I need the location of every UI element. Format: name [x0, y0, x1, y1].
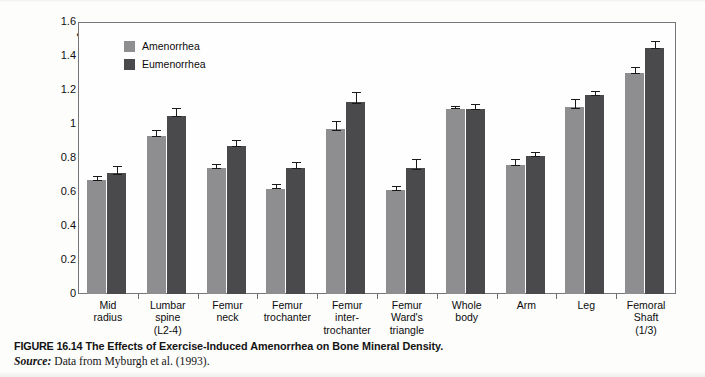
- error-bar-cap-bottom: [591, 95, 600, 96]
- y-tick: 1.6: [36, 22, 84, 23]
- y-tick: 0.4: [36, 226, 84, 227]
- y-tick-label: 1.4: [36, 49, 76, 61]
- x-axis-label: Arm: [497, 299, 557, 311]
- error-bar-cap-top: [531, 152, 540, 153]
- y-tick-label: 0.2: [36, 253, 76, 265]
- error-bar-cap-bottom: [332, 130, 341, 131]
- bar-eumenorrhea: [645, 48, 664, 295]
- bar-eumenorrhea: [227, 146, 246, 294]
- x-axis-label-line: (L2-4): [138, 324, 198, 336]
- bar-eumenorrhea: [406, 168, 425, 294]
- x-axis-label: Midradius: [78, 299, 138, 324]
- error-bar-cap-top: [172, 108, 181, 109]
- error-bar-cap-bottom: [571, 108, 580, 109]
- x-axis-label: Wholebody: [437, 299, 497, 324]
- error-bar-cap-top: [272, 184, 281, 185]
- error-bar-cap-top: [352, 92, 361, 93]
- bars-layer: [78, 22, 676, 294]
- error-bar-cap-top: [113, 166, 122, 167]
- bar-group: [78, 22, 138, 294]
- error-bar-cap-top: [392, 186, 401, 187]
- error-bar-cap-bottom: [152, 136, 161, 137]
- bar-amenorrhea: [386, 190, 405, 294]
- x-axis-label-line: triangle: [377, 324, 437, 336]
- y-tick-mark: [78, 294, 84, 295]
- error-bar-cap-bottom: [272, 188, 281, 189]
- error-bar-cap-bottom: [292, 168, 301, 169]
- x-axis-label-line: Ward's: [377, 311, 437, 323]
- bar-amenorrhea: [625, 73, 644, 294]
- bar-amenorrhea: [446, 109, 465, 294]
- bar-amenorrhea: [565, 107, 584, 294]
- bar-eumenorrhea: [346, 102, 365, 294]
- error-bar-cap-bottom: [531, 156, 540, 157]
- error-bar-cap-bottom: [212, 168, 221, 169]
- bar-eumenorrhea: [107, 173, 126, 294]
- bar-group: [377, 22, 437, 294]
- error-bar-cap-top: [232, 140, 241, 141]
- y-tick-label: 1.6: [36, 15, 76, 27]
- error-bar-cap-top: [591, 91, 600, 92]
- x-axis-label-line: Arm: [497, 299, 557, 311]
- bar-amenorrhea: [326, 129, 345, 294]
- bar-group: [317, 22, 377, 294]
- error-bar-cap-bottom: [352, 103, 361, 104]
- error-bar-cap-bottom: [511, 165, 520, 166]
- error-bar-cap-bottom: [451, 108, 460, 109]
- error-bar-cap-bottom: [232, 146, 241, 147]
- x-axis-label: Femurinter-trochanter: [317, 299, 377, 336]
- scan-edge-bottom: [0, 371, 705, 377]
- x-axis-label: Femurtrochanter: [257, 299, 317, 324]
- bar-amenorrhea: [207, 168, 226, 294]
- error-bar-cap-top: [152, 130, 161, 131]
- bar-group: [556, 22, 616, 294]
- x-axis-label-line: Whole: [437, 299, 497, 311]
- bar-group: [257, 22, 317, 294]
- y-tick-label: 0.4: [36, 219, 76, 231]
- y-tick-label: 0: [36, 287, 76, 299]
- bar-amenorrhea: [87, 180, 106, 294]
- y-tick-label: 0.6: [36, 185, 76, 197]
- bar-amenorrhea: [506, 165, 525, 294]
- bar-eumenorrhea: [286, 168, 305, 294]
- figure-caption: FIGURE 16.14 The Effects of Exercise-Ind…: [14, 340, 684, 368]
- x-axis-label-line: trochanter: [317, 324, 377, 336]
- x-axis-label-line: inter-: [317, 311, 377, 323]
- x-axis-label-line: radius: [78, 311, 138, 323]
- y-tick: 0: [36, 294, 84, 295]
- bar-eumenorrhea: [466, 109, 485, 294]
- x-axis-label: Leg: [556, 299, 616, 311]
- x-axis-label-line: Femur: [257, 299, 317, 311]
- error-bar-cap-bottom: [471, 109, 480, 110]
- x-axis-label: Lumbarspine(L2-4): [138, 299, 198, 336]
- x-axis-label-line: Leg: [556, 299, 616, 311]
- error-bar-cap-bottom: [113, 174, 122, 175]
- y-tick: 1: [36, 124, 84, 125]
- error-bar-cap-bottom: [651, 48, 660, 49]
- figure-number: FIGURE 16.14: [14, 340, 82, 352]
- bar-eumenorrhea: [167, 116, 186, 295]
- bar-chart: Bone mineral density (g·cm−2) 00.20.40.6…: [0, 0, 705, 300]
- error-bar-cap-top: [571, 99, 580, 100]
- error-bar-cap-top: [93, 176, 102, 177]
- source-label: Source:: [14, 355, 51, 368]
- source-text: Data from Myburgh et al. (1993).: [54, 355, 209, 368]
- error-bar-cap-top: [292, 162, 301, 163]
- error-bar-cap-bottom: [93, 180, 102, 181]
- y-tick: 0.2: [36, 260, 84, 261]
- x-axis-label-line: Lumbar: [138, 299, 198, 311]
- bar-group: [437, 22, 497, 294]
- error-bar-cap-top: [631, 67, 640, 68]
- bar-group: [616, 22, 676, 294]
- error-bar-cap-top: [212, 164, 221, 165]
- x-axis-label-line: (1/3): [616, 324, 676, 336]
- x-axis-label-line: Femur: [198, 299, 258, 311]
- x-axis-label: FemoralShaft(1/3): [616, 299, 676, 336]
- x-axis-label-line: Mid: [78, 299, 138, 311]
- error-bar-cap-top: [511, 159, 520, 160]
- bar-group: [138, 22, 198, 294]
- error-bar-cap-bottom: [412, 169, 421, 170]
- x-axis-label-line: Femoral: [616, 299, 676, 311]
- error-bar-cap-top: [332, 121, 341, 122]
- x-axis-label: Femurneck: [198, 299, 258, 324]
